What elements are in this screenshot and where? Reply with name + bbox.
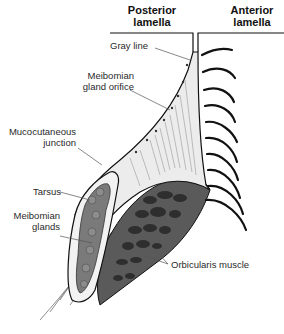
posterior-line1: Posterior [107,4,197,16]
label-gray-line: Gray line [110,40,148,51]
anterior-line1: Anterior [220,4,284,16]
eyelashes [202,49,246,230]
mucocutaneous-line1: Mucocutaneous [6,126,76,137]
posterior-lamella-header: Posterior lamella [107,4,197,28]
label-meibomian-glands: Meibomian glands [6,210,60,232]
label-orbicularis-muscle: Orbicularis muscle [171,259,249,270]
meibomian-orifice-line2: gland orifice [68,81,134,92]
meibomian-orifice-line1: Meibomian [68,70,134,81]
anterior-line2: lamella [220,16,284,28]
meibomian-glands-line2: glands [6,221,60,232]
posterior-line2: lamella [107,16,197,28]
meibomian-glands-line1: Meibomian [6,210,60,221]
label-mucocutaneous-junction: Mucocutaneous junction [6,126,76,148]
label-meibomian-gland-orifice: Meibomian gland orifice [68,70,134,92]
eyelid-diagram: Posterior lamella Anterior lamella Gray … [0,0,284,334]
anterior-lamella-header: Anterior lamella [220,4,284,28]
label-tarsus: Tarsus [33,186,61,197]
mucocutaneous-line2: junction [6,137,76,148]
